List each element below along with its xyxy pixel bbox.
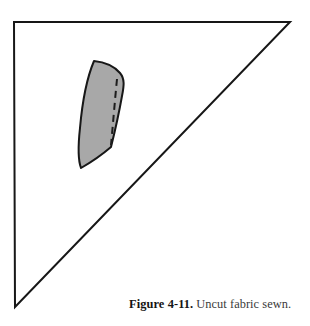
figure-caption-label: Figure 4-11. xyxy=(129,297,193,311)
figure-caption: Figure 4-11.Uncut fabric sewn. xyxy=(129,297,291,312)
right-triangle-fabric-outline xyxy=(14,22,290,307)
uncut-fabric-piece xyxy=(79,61,124,168)
figure-container: Figure 4-11.Uncut fabric sewn. xyxy=(0,0,310,326)
figure-caption-text: Uncut fabric sewn. xyxy=(196,297,291,311)
figure-illustration xyxy=(0,0,310,326)
